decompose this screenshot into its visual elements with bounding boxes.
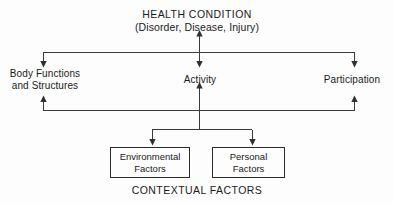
arrowhead-to-personal-factors: [249, 139, 255, 145]
contextual-factors-caption: CONTEXTUAL FACTORS: [97, 184, 297, 197]
node-participation: Participation: [312, 74, 392, 86]
node-activity: Activity: [160, 74, 240, 86]
environmental-factors-label: Environmental Factors: [120, 151, 181, 175]
environmental-factors-box: Environmental Factors: [110, 147, 190, 178]
personal-factors-box: Personal Factors: [212, 147, 285, 178]
arrowhead-to-activity-top: [196, 61, 202, 67]
health-condition-title: HEALTH CONDITION: [97, 8, 297, 21]
arrowhead-participation-to-bus: [351, 96, 357, 102]
arrowhead-to-environmental-factors: [149, 139, 155, 145]
arrowhead-body-functions-to-bus: [40, 96, 46, 102]
personal-factors-label: Personal Factors: [230, 151, 268, 175]
health-condition-subtitle: (Disorder, Disease, Injury): [97, 21, 297, 34]
node-body-functions-and-structures: Body Functions and Structures: [0, 68, 90, 92]
arrowhead-to-body-functions: [40, 61, 46, 67]
arrowhead-to-participation: [351, 61, 357, 67]
icf-model-diagram: HEALTH CONDITION (Disorder, Disease, Inj…: [0, 0, 394, 203]
